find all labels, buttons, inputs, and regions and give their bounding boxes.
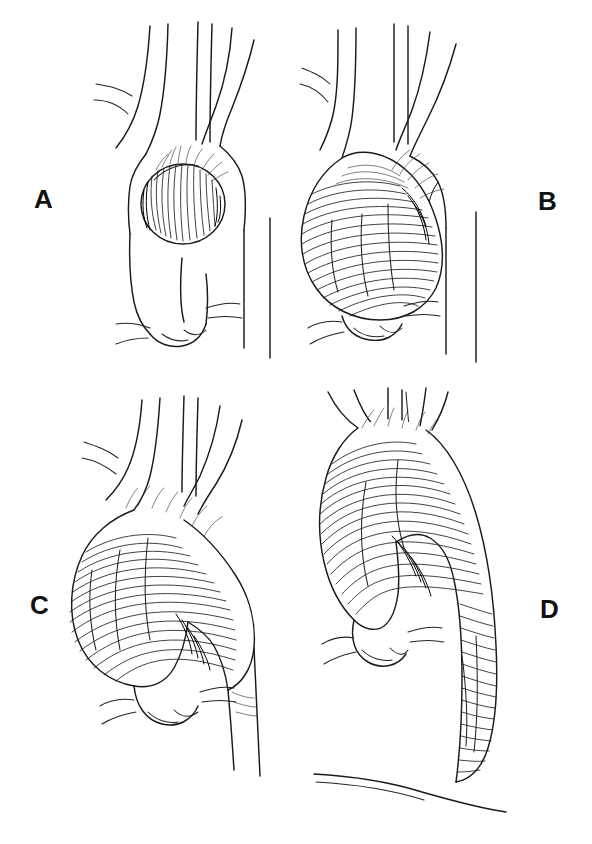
arch-vessels-a <box>94 22 254 154</box>
panel-label-d: D <box>540 596 559 622</box>
fusiform-aneurysm-b <box>301 150 444 320</box>
extensive-aneurysm-d <box>320 408 497 782</box>
panel-label-b: B <box>538 188 557 214</box>
panel-label-c: C <box>30 592 49 618</box>
arch-vessels-c <box>82 396 242 514</box>
aortic-root-a <box>116 258 242 347</box>
panel-c <box>56 392 306 792</box>
panel-a <box>72 18 302 378</box>
panel-d <box>310 386 540 816</box>
arch-vessels-b <box>300 24 456 158</box>
figure-sheet: A <box>0 0 592 844</box>
panel-b <box>296 18 526 388</box>
panel-a-illustration <box>72 18 302 378</box>
aortic-root-c <box>100 686 236 725</box>
panel-c-illustration <box>56 392 306 792</box>
saccular-aneurysm-a <box>141 146 228 244</box>
panel-label-a: A <box>34 186 53 212</box>
panel-b-illustration <box>296 18 526 388</box>
arch-aneurysm-c <box>70 486 254 690</box>
diaphragm-d <box>314 774 506 812</box>
panel-d-illustration <box>310 386 540 816</box>
